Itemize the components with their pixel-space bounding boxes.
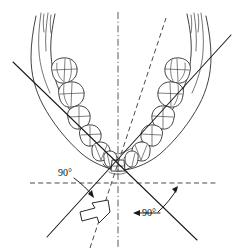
angle-label-right: 90° [142,208,156,218]
left-posterior-teeth [52,58,117,167]
figure-root: 90° 90° [0,0,242,252]
mandible-outline [31,13,211,171]
hollow-block-arrow [80,200,110,223]
angle-label-left: 90° [58,168,72,178]
mandible-diagram-svg [0,0,242,252]
